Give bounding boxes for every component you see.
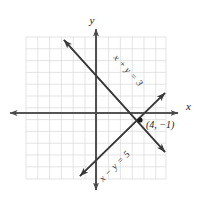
graph-figure: y x x + y = 3 x − y = 5 (4, −1) [0, 0, 199, 204]
intersection-point-marker [137, 117, 142, 122]
coordinate-plane-svg: y x x + y = 3 x − y = 5 (4, −1) [0, 0, 199, 204]
line-label-x-plus-y-equals-3: x + y = 3 [111, 52, 145, 88]
intersection-point-label: (4, −1) [146, 119, 175, 131]
y-axis-label: y [89, 14, 95, 26]
x-axis-label: x [185, 100, 191, 112]
